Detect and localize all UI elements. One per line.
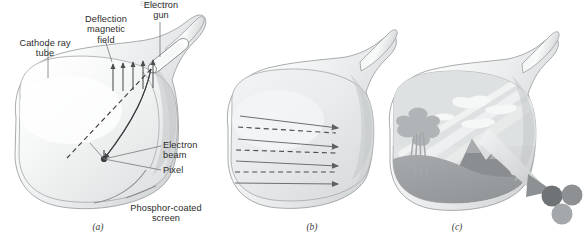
label-pixel: Pixel [163,165,223,175]
caption-c: (c) [442,222,472,232]
panel-b-raster-scan [227,30,397,209]
phosphor-dot-1 [542,186,563,207]
panel-c-displayed-image [389,32,582,225]
label-electron-gun: Electron gun [128,0,194,21]
caption-b: (b) [297,222,327,232]
phosphor-dot-3 [552,204,573,225]
caption-a: (a) [83,222,113,232]
label-phosphor-coated-screen: Phosphor-coated screen [118,203,214,224]
phosphor-dot-triad [542,185,583,225]
phosphor-dot-2 [562,185,583,206]
label-electron-beam: Electron beam [163,140,233,161]
